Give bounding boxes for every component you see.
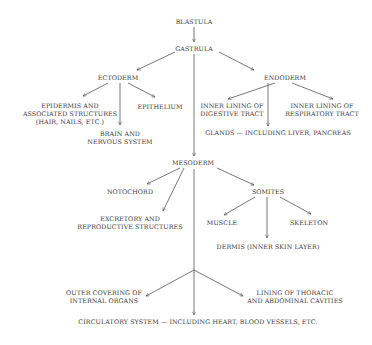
node-glands: GLANDS — INCLUDING LIVER, PANCREAS — [205, 129, 351, 137]
node-respiratory: INNER LINING OF RESPIRATORY TRACT — [285, 102, 359, 118]
node-lining-cavities: LINING OF THORACIC AND ABDOMINAL CAVITIE… — [247, 289, 343, 305]
node-epidermis: EPIDERMIS AND ASSOCIATED STRUCTURES (HAI… — [23, 102, 117, 126]
node-endoderm: ENDODERM — [264, 74, 306, 82]
arrow-endoderm-respiratory — [292, 83, 333, 99]
node-ectoderm: ECTODERM — [98, 74, 138, 82]
arrow-trunk-outer-covering — [146, 270, 194, 296]
node-notochord: NOTOCHORD — [107, 188, 153, 196]
arrow-trunk-lining-cavities — [194, 270, 243, 296]
node-outer-covering: OUTER COVERING OF INTERNAL ORGANS — [66, 289, 142, 305]
arrow-gastrula-ectoderm — [137, 52, 175, 70]
node-blastula: BLASTULA — [176, 18, 213, 26]
node-brain: BRAIN AND NERVOUS SYSTEM — [87, 130, 152, 146]
node-skeleton: SKELETON — [290, 219, 328, 227]
arrow-ectoderm-epithelium — [128, 83, 155, 97]
node-muscle: MUSCLE — [207, 219, 237, 227]
node-epithelium: EPITHELIUM — [137, 103, 182, 111]
node-mesoderm: MESODERM — [172, 159, 214, 167]
arrow-somites-skeleton — [280, 197, 311, 214]
node-gastrula: GASTRULA — [175, 45, 213, 53]
node-somites: SOMITES — [252, 188, 284, 196]
node-dermis: DERMIS (INNER SKIN LAYER) — [217, 243, 320, 251]
arrow-ectoderm-epidermis — [83, 83, 108, 96]
node-digestive: INNER LINING OF DIGESTIVE TRACT — [200, 102, 263, 118]
germ-layer-diagram: BLASTULA GASTRULA ECTODERM ENDODERM EPID… — [0, 0, 372, 345]
arrow-mesoderm-somites — [217, 168, 254, 185]
arrow-somites-muscle — [224, 197, 255, 215]
node-excretory: EXCRETORY AND REPRODUCTIVE STRUCTURES — [77, 215, 182, 231]
arrow-mesoderm-notochord — [147, 168, 180, 184]
arrow-gastrula-endoderm — [219, 52, 254, 70]
node-circulatory: CIRCULATORY SYSTEM — INCLUDING HEART, BL… — [78, 318, 317, 326]
